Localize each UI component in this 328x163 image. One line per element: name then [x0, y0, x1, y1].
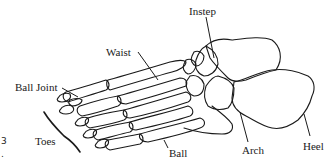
label-heel: Heel [303, 141, 324, 152]
label-toes: Toes [35, 136, 56, 147]
edge-number: 3 [1, 137, 7, 146]
cuneiform-1 [191, 51, 204, 66]
label-ball: Ball [169, 148, 187, 159]
foot-bone-diagram: Instep Waist Ball Joint Toes Ball Arch H… [0, 0, 328, 163]
phalanx-3 [85, 110, 127, 128]
ball-pointer [164, 140, 168, 148]
metatarsal-2 [117, 78, 186, 104]
toe-tip-2 [59, 105, 73, 114]
phalanx-4 [93, 122, 133, 140]
label-instep: Instep [189, 6, 216, 17]
edge-dot: . [1, 150, 4, 159]
label-ball-joint: Ball Joint [15, 82, 57, 93]
metatarsal-1 [107, 61, 186, 91]
phalanx-2 [77, 96, 121, 116]
label-arch: Arch [242, 145, 264, 156]
instep-pointer [206, 17, 214, 58]
metatarsal-3 [123, 92, 191, 118]
navicular-bone [195, 46, 218, 76]
heel-pointer [304, 114, 310, 136]
heel-bone [232, 69, 314, 128]
metatarsal-4 [129, 106, 193, 130]
label-waist: Waist [106, 47, 131, 58]
cuboid-bone [205, 76, 234, 109]
